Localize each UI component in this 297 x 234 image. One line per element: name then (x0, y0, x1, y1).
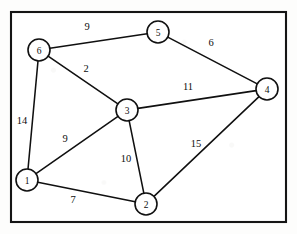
edge-weight-2-4: 15 (191, 138, 202, 149)
graph-node-3: 3 (116, 99, 138, 121)
edge-weight-1-2: 7 (70, 194, 75, 205)
graph-node-2: 2 (135, 193, 157, 215)
graph-node-4: 4 (256, 78, 278, 100)
node-label-6: 6 (37, 46, 42, 56)
node-label-5: 5 (156, 28, 161, 38)
edge-weight-5-4: 6 (208, 37, 213, 48)
graph-node-6: 6 (28, 39, 50, 61)
edge-weight-6-1: 14 (17, 115, 28, 126)
graph-node-1: 1 (16, 169, 38, 191)
edge-weight-3-2: 10 (121, 153, 132, 164)
edge-weight-3-1: 9 (62, 133, 67, 144)
edge-weight-6-5: 9 (84, 21, 89, 32)
edge-weight-3-4: 11 (183, 81, 193, 92)
node-label-2: 2 (144, 200, 149, 210)
graph-node-5: 5 (147, 21, 169, 43)
graph-figure: 9621411910715 123456 (0, 0, 297, 234)
graph-canvas: 9621411910715 123456 (0, 0, 297, 234)
node-label-4: 4 (265, 85, 270, 95)
node-label-3: 3 (125, 106, 130, 116)
figure-border (11, 12, 286, 222)
edge-weight-6-3: 2 (83, 63, 88, 74)
node-label-1: 1 (25, 176, 30, 186)
